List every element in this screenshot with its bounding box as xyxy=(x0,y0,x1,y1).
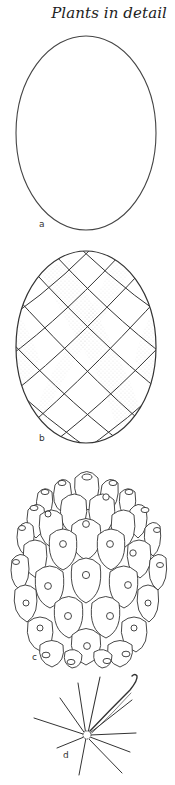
figure-b-lattice-oval xyxy=(0,245,175,450)
figure-d-label: d xyxy=(63,750,69,760)
page-title: Plants in detail xyxy=(51,4,167,22)
page: Plants in detail a xyxy=(0,0,175,785)
figure-b-label: b xyxy=(39,433,45,443)
figure-a-oval-outline xyxy=(0,30,175,235)
figure-c-tubercle-cone xyxy=(0,455,175,670)
figure-a-label: a xyxy=(39,219,45,229)
figure-d-spine-cluster xyxy=(0,670,175,785)
figure-c-label: c xyxy=(32,652,37,662)
